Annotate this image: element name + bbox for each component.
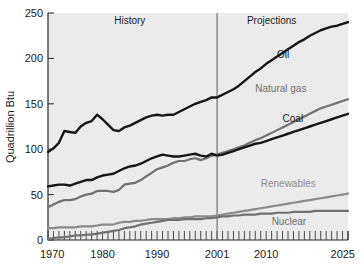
history-label: History bbox=[114, 15, 145, 26]
series-label-coal: Coal bbox=[283, 113, 304, 124]
series-label-nuclear: Nuclear bbox=[272, 216, 307, 227]
series-label-renewables: Renewables bbox=[261, 178, 316, 189]
y-axis-title: Quadrillion Btu bbox=[4, 91, 16, 163]
y-tick-label: 200 bbox=[25, 52, 43, 64]
plot-background bbox=[48, 13, 348, 240]
y-tick-label: 50 bbox=[31, 189, 43, 201]
x-tick-label: 2001 bbox=[205, 248, 229, 260]
projections-label: Projections bbox=[247, 15, 296, 26]
y-axis-tick-labels: 050100150200250 bbox=[25, 7, 43, 246]
x-tick-label: 1990 bbox=[145, 248, 169, 260]
x-tick-label: 2025 bbox=[331, 248, 355, 260]
x-tick-label: 1980 bbox=[90, 248, 114, 260]
chart-canvas: 050100150200250 197019801990200120102025… bbox=[0, 0, 361, 269]
x-axis-tick-labels: 197019801990200120102025 bbox=[40, 248, 355, 260]
series-label-natural-gas: Natural gas bbox=[255, 83, 306, 94]
energy-consumption-chart: 050100150200250 197019801990200120102025… bbox=[0, 0, 361, 269]
y-tick-label: 100 bbox=[25, 143, 43, 155]
x-tick-label: 2010 bbox=[254, 248, 278, 260]
y-tick-label: 150 bbox=[25, 98, 43, 110]
x-tick-label: 1970 bbox=[40, 248, 64, 260]
series-label-oil: Oil bbox=[277, 49, 289, 60]
y-tick-label: 250 bbox=[25, 7, 43, 19]
y-tick-label: 0 bbox=[37, 234, 43, 246]
